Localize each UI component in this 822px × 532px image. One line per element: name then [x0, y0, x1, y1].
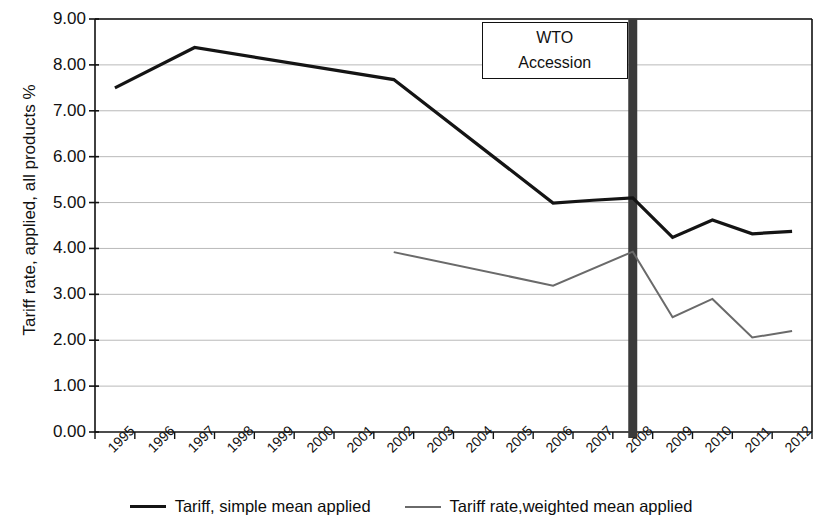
legend-label-weighted-mean: Tariff rate,weighted mean applied — [450, 497, 693, 516]
wto-accession-line2: Accession — [483, 50, 627, 75]
series-line-simple-mean — [115, 47, 792, 237]
legend-item-simple-mean: Tariff, simple mean applied — [130, 497, 371, 516]
legend-label-simple-mean: Tariff, simple mean applied — [175, 497, 371, 516]
legend-item-weighted-mean: Tariff rate,weighted mean applied — [405, 497, 693, 516]
wto-accession-line1: WTO — [483, 25, 627, 50]
legend-line-icon-gray — [405, 506, 441, 508]
tariff-rate-line-chart: Tariff rate, applied, all products % 0.0… — [0, 0, 822, 532]
wto-accession-annotation: WTO Accession — [482, 22, 628, 79]
plot-area — [0, 0, 822, 532]
legend-line-icon-dark — [130, 505, 166, 508]
chart-legend: Tariff, simple mean applied Tariff rate,… — [0, 497, 822, 516]
